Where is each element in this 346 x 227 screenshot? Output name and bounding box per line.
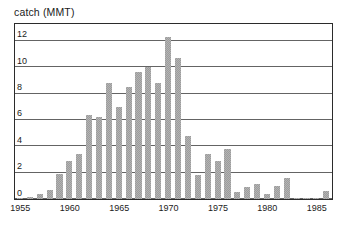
bar-1985 bbox=[313, 198, 319, 199]
bar-1961 bbox=[76, 154, 82, 199]
y-tick-label: 8 bbox=[17, 82, 22, 93]
x-tick-label: 1975 bbox=[208, 203, 228, 213]
bar-1956 bbox=[27, 197, 33, 199]
bar-1984 bbox=[303, 198, 309, 199]
x-tick-label: 1960 bbox=[60, 203, 80, 213]
y-tick-label: 12 bbox=[17, 29, 27, 40]
bar-1963 bbox=[96, 117, 102, 199]
bar-1968 bbox=[145, 67, 151, 199]
bar-1975 bbox=[215, 161, 221, 199]
page-title: catch (MMT) bbox=[14, 6, 75, 18]
y-tick-label: 2 bbox=[17, 161, 22, 172]
x-tick-label: 1955 bbox=[10, 203, 30, 213]
bar-1983 bbox=[294, 198, 300, 199]
bar-1978 bbox=[244, 187, 250, 199]
bar-1959 bbox=[56, 174, 62, 199]
y-tick-label: 4 bbox=[17, 135, 22, 146]
bar-1979 bbox=[254, 184, 260, 199]
gridline-6 bbox=[15, 119, 332, 120]
bar-1960 bbox=[66, 161, 72, 199]
bar-1966 bbox=[126, 87, 132, 199]
y-tick-label: 10 bbox=[17, 56, 27, 67]
bar-1982 bbox=[284, 178, 290, 199]
bar-1958 bbox=[47, 190, 53, 199]
gridline-8 bbox=[15, 93, 332, 94]
bar-1976 bbox=[224, 149, 230, 199]
bar-1971 bbox=[175, 58, 181, 199]
gridline-4 bbox=[15, 145, 332, 146]
gridline-2 bbox=[15, 172, 332, 173]
gridline-12 bbox=[15, 40, 332, 41]
bar-1973 bbox=[195, 175, 201, 199]
y-tick-label: 0 bbox=[17, 188, 22, 199]
bar-1970 bbox=[165, 37, 171, 199]
gridline-10 bbox=[15, 66, 332, 67]
bar-1957 bbox=[37, 194, 43, 199]
bar-1980 bbox=[264, 194, 270, 199]
bar-1981 bbox=[274, 186, 280, 199]
x-tick-label: 1980 bbox=[257, 203, 277, 213]
x-tick-label: 1970 bbox=[159, 203, 179, 213]
bar-1986 bbox=[323, 191, 329, 199]
bar-1964 bbox=[106, 83, 112, 199]
plot-area bbox=[14, 23, 333, 200]
bar-1962 bbox=[86, 115, 92, 199]
bar-1972 bbox=[185, 136, 191, 199]
bar-1974 bbox=[205, 154, 211, 199]
bar-1977 bbox=[234, 192, 240, 199]
y-tick-label: 6 bbox=[17, 108, 22, 119]
x-tick-label: 1985 bbox=[307, 203, 327, 213]
bar-1969 bbox=[155, 83, 161, 199]
chart-figure: catch (MMT) 024681012 195519601965197019… bbox=[0, 0, 346, 227]
bar-1967 bbox=[135, 72, 141, 199]
bar-1965 bbox=[116, 107, 122, 199]
x-tick-label: 1965 bbox=[109, 203, 129, 213]
plot-inner bbox=[15, 24, 332, 199]
